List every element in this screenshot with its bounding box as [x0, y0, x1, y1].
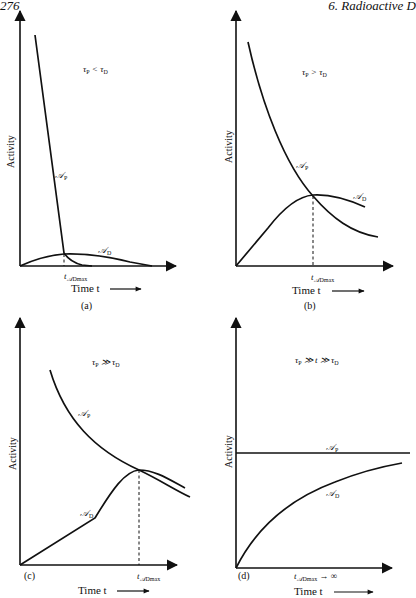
daughter-activity-curve: [20, 254, 152, 266]
parent-activity-curve: [50, 370, 190, 497]
parent-curve-label: 𝒜P: [326, 442, 339, 453]
tmax-label: t𝒜Dmax: [64, 271, 87, 282]
tmax-label: t𝒜Dmax: [137, 571, 160, 582]
daughter-curve-label: 𝒜D: [326, 488, 340, 499]
panel-label: (c): [24, 570, 35, 582]
y-axis-label: Activity: [7, 437, 18, 470]
x-axis-label: Time t: [292, 284, 321, 296]
parent-curve-label: 𝒜P: [78, 408, 91, 419]
y-axis-label: Activity: [223, 435, 234, 468]
x-axis-label: Time t: [294, 585, 323, 597]
daughter-curve-label: 𝒜D: [353, 191, 367, 202]
tmax-label: t𝒜Dmax: [311, 272, 334, 283]
tmax-label: t𝒜Dmax → ∞: [294, 571, 337, 582]
daughter-activity-curve: [20, 470, 185, 565]
panel-label: (d): [238, 570, 250, 582]
y-axis-label: Activity: [223, 130, 234, 163]
panel-b: τP > τD Activity 𝒜P 𝒜D t𝒜Dmax Time t (b): [223, 11, 393, 312]
parent-curve-label: 𝒜P: [296, 160, 309, 171]
daughter-curve-label: 𝒜D: [80, 508, 94, 519]
y-axis-label: Activity: [5, 135, 16, 168]
panel-c: τP ≫ τD Activity 𝒜P 𝒜D (c) t𝒜Dmax Time t: [7, 318, 190, 596]
panel-d: τP ≫ t ≫ τD Activity 𝒜P 𝒜D (d) t𝒜Dmax → …: [223, 318, 410, 597]
condition-label: τP > τD: [302, 67, 327, 78]
condition-label: τP < τD: [83, 64, 108, 75]
condition-label: τP ≫ t ≫ τD: [295, 355, 339, 366]
daughter-curve-label: 𝒜D: [98, 245, 112, 256]
daughter-activity-curve: [236, 195, 365, 266]
panel-label: (b): [304, 300, 316, 312]
panel-label: (a): [81, 300, 92, 312]
x-axis-label: Time t: [71, 282, 100, 294]
panel-a: τP < τD Activity 𝒜P 𝒜D t𝒜Dmax Time t (a): [5, 11, 176, 312]
x-axis-label: Time t: [78, 584, 107, 596]
condition-label: τP ≫ τD: [92, 357, 120, 368]
daughter-activity-curve: [236, 463, 402, 568]
parent-curve-label: 𝒜P: [55, 170, 68, 181]
